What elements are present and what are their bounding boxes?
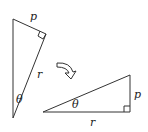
label-r-after: r bbox=[90, 116, 96, 129]
curved-arrow-icon bbox=[57, 63, 76, 79]
triangle-before: p r θ bbox=[13, 10, 46, 118]
triangle-after: θ p r bbox=[43, 75, 141, 129]
label-theta-after: θ bbox=[72, 98, 79, 111]
right-angle-marker bbox=[124, 106, 130, 112]
label-p-before: p bbox=[30, 10, 37, 23]
rotation-diagram: p r θ θ p r bbox=[0, 0, 148, 132]
label-theta-before: θ bbox=[16, 93, 23, 106]
label-r-before: r bbox=[37, 68, 43, 81]
triangle-after-outline bbox=[43, 75, 130, 112]
label-p-after: p bbox=[134, 88, 141, 101]
